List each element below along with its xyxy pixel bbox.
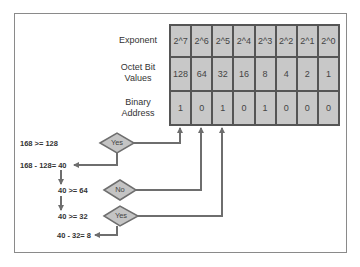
decision-label-yes-1: Yes <box>102 138 132 147</box>
compare-40-64: 40 >= 64 <box>58 186 88 195</box>
arrow-to-result-40 <box>74 153 117 165</box>
result-40-minus-32: 40 - 32= 8 <box>57 231 91 240</box>
arrow-to-result-8 <box>95 226 117 235</box>
decision-label-no: No <box>105 185 135 194</box>
compare-168-128: 168 >= 128 <box>20 139 58 148</box>
arrow-to-bit-128 <box>132 128 180 143</box>
arrow-to-bit-64 <box>136 128 201 190</box>
flow-connectors <box>0 0 360 267</box>
compare-40-32: 40 >= 32 <box>58 212 88 221</box>
decision-label-yes-2: Yes <box>106 211 136 220</box>
result-168-minus-128: 168 - 128= 40 <box>20 161 67 170</box>
